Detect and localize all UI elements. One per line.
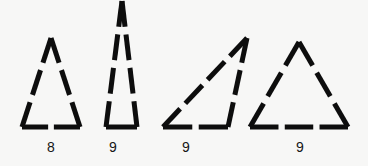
triangle-2-right-dash-3 bbox=[130, 68, 133, 94]
triangle-3-right-dash-2 bbox=[235, 70, 240, 95]
triangle-2-left-dash-3 bbox=[114, 34, 117, 60]
triangle-4-left-dash-3 bbox=[285, 42, 299, 66]
triangle-4-right-dash-3 bbox=[334, 103, 348, 127]
triangle-2-left-dash-1 bbox=[106, 101, 109, 127]
figure-container: 8 9 9 9 bbox=[0, 0, 368, 166]
triangle-2-right-dash-1 bbox=[122, 1, 125, 27]
triangle-2-left-dash-2 bbox=[110, 68, 113, 94]
triangle-2-right-dash-4 bbox=[134, 101, 137, 127]
triangle-4-right-dash-1 bbox=[299, 42, 313, 66]
oblique-scalene-triangle bbox=[163, 38, 247, 127]
triangle-2-right-dash-2 bbox=[126, 34, 129, 60]
triangle-3-left-dash-1 bbox=[163, 109, 180, 127]
shape-label-1: 8 bbox=[39, 139, 63, 155]
triangle-4-left-dash-1 bbox=[250, 103, 264, 127]
triangle-1-right-dash-2 bbox=[61, 70, 69, 95]
triangle-4-right-dash-2 bbox=[317, 73, 331, 97]
shapes-group bbox=[22, 1, 348, 127]
triangle-3-left-dash-3 bbox=[208, 62, 225, 80]
triangle-1-left-dash-2 bbox=[32, 70, 40, 95]
triangle-1-right-dash-1 bbox=[51, 38, 59, 63]
tall-sliver-triangle bbox=[106, 1, 137, 127]
shape-label-3: 9 bbox=[174, 139, 198, 155]
triangle-3-right-dash-3 bbox=[228, 102, 233, 127]
triangle-4-left-dash-2 bbox=[268, 73, 282, 97]
shape-label-4: 9 bbox=[288, 139, 312, 155]
triangle-3-left-dash-2 bbox=[185, 85, 202, 103]
triangle-1-right-dash-3 bbox=[72, 102, 80, 127]
wide-isosceles-triangle bbox=[250, 42, 348, 127]
shape-label-2: 9 bbox=[101, 139, 125, 155]
narrow-isosceles-triangle bbox=[22, 38, 80, 127]
triangle-1-left-dash-1 bbox=[22, 102, 30, 127]
